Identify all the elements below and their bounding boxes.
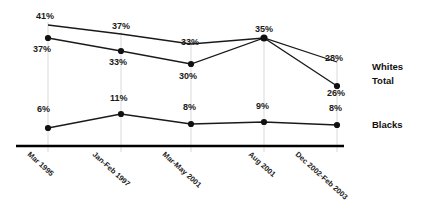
value-label: 37% [112, 21, 130, 31]
series-blacks-marker [45, 125, 51, 131]
value-label: 6% [37, 104, 50, 114]
series-total-marker [188, 61, 194, 67]
series-blacks-marker [261, 119, 267, 125]
value-label: 41% [36, 11, 54, 21]
value-label: 33% [109, 57, 127, 67]
x-axis-labels: Mar 1995 Jan-Feb 1997 Mar-May 2001 Aug 2… [26, 150, 350, 202]
legend: Whites Total Blacks [372, 61, 403, 130]
value-label: 8% [329, 103, 342, 113]
whites-value-labels: 41% 37% 33% 35% 28% [36, 11, 343, 63]
total-value-labels: 37% 33% 30% 26% [33, 44, 345, 98]
value-label: 33% [181, 37, 199, 47]
series-blacks-marker [334, 122, 340, 128]
chart-canvas: 41% 37% 33% 35% 28% 37% 33% 30% 26% 6% 1… [0, 0, 423, 218]
series-total-marker [118, 48, 124, 54]
series-blacks [45, 111, 340, 131]
x-axis-tick-label: Mar-May 2001 [161, 150, 204, 190]
x-axis-tick-label: Aug 2001 [247, 150, 278, 179]
legend-label-whites: Whites [372, 61, 403, 72]
blacks-value-labels: 6% 11% 8% 9% 8% [37, 93, 342, 114]
value-label: 30% [179, 71, 197, 81]
value-label: 26% [327, 88, 345, 98]
value-label: 37% [33, 44, 51, 54]
series-blacks-marker [118, 111, 124, 117]
line-chart: 41% 37% 33% 35% 28% 37% 33% 30% 26% 6% 1… [0, 0, 423, 218]
legend-label-blacks: Blacks [372, 119, 403, 130]
series-blacks-marker [188, 121, 194, 127]
value-label: 28% [325, 53, 343, 63]
value-label: 9% [256, 101, 269, 111]
x-axis-tick-label: Dec 2002-Feb 2003 [294, 150, 350, 202]
value-label: 8% [183, 102, 196, 112]
legend-label-total: Total [372, 75, 394, 86]
x-axis-tick-label: Jan-Feb 1997 [91, 150, 132, 188]
value-label: 11% [110, 93, 128, 103]
series-total-marker [260, 34, 267, 41]
x-axis-tick-label: Mar 1995 [26, 150, 56, 178]
value-label: 35% [255, 24, 273, 34]
series-total-marker [45, 35, 51, 41]
